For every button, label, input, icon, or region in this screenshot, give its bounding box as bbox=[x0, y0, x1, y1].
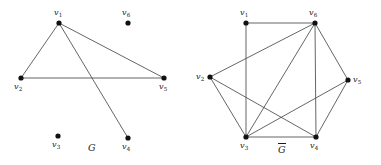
graph-edge-v1-v4 bbox=[59, 23, 128, 138]
vertex-label-subscript: 1 bbox=[245, 12, 249, 18]
vertex-label-base: v bbox=[14, 82, 19, 91]
vertex-label-v3: v3 bbox=[240, 142, 248, 150]
vertex-label-v2: v2 bbox=[196, 73, 204, 81]
graph-vertex-v4 bbox=[125, 135, 130, 140]
vertex-label-subscript: 3 bbox=[245, 145, 249, 151]
vertex-label-base: v bbox=[122, 8, 127, 17]
graph-edge-v3-v6 bbox=[246, 23, 315, 137]
vertex-label-base: v bbox=[54, 8, 59, 17]
graph-vertex-v2 bbox=[207, 74, 212, 79]
vertex-label-v2: v2 bbox=[14, 83, 22, 91]
graph-edge-v5-v6 bbox=[315, 23, 348, 80]
vertex-label-subscript: 6 bbox=[127, 12, 131, 18]
vertex-label-base: v bbox=[196, 72, 201, 81]
graph-vertex-v6 bbox=[125, 20, 130, 25]
graph-vertex-v5 bbox=[345, 77, 350, 82]
graph-caption-graph-g: G bbox=[88, 143, 96, 153]
graph-edge-v3-v5 bbox=[246, 80, 348, 137]
graph-vertex-v4 bbox=[313, 134, 318, 139]
vertex-label-base: v bbox=[159, 82, 164, 91]
graph-vertex-v2 bbox=[18, 75, 23, 80]
vertex-label-base: v bbox=[310, 141, 315, 150]
vertex-label-subscript: 4 bbox=[315, 145, 319, 151]
graph-vertex-v6 bbox=[312, 20, 317, 25]
vertex-label-subscript: 4 bbox=[127, 146, 131, 152]
vertex-label-v6: v6 bbox=[309, 9, 317, 17]
vertex-label-base: v bbox=[52, 140, 57, 149]
graph-vertex-v3 bbox=[243, 134, 248, 139]
vertex-label-v5: v5 bbox=[353, 76, 361, 84]
graph-edge-v2-v3 bbox=[210, 77, 246, 137]
vertex-label-subscript: 5 bbox=[358, 79, 362, 85]
graph-vertex-v3 bbox=[55, 133, 60, 138]
graph-vertex-v1 bbox=[56, 20, 61, 25]
figure-container: v1v2v3v4v5v6Gv1v2v3v4v5v6G bbox=[0, 0, 381, 165]
vertex-label-base: v bbox=[353, 75, 358, 84]
graph-edge-v1-v2 bbox=[21, 23, 59, 78]
vertex-label-base: v bbox=[240, 8, 245, 17]
vertex-label-subscript: 2 bbox=[19, 86, 23, 92]
vertex-label-base: v bbox=[240, 141, 245, 150]
vertex-label-v4: v4 bbox=[122, 143, 130, 151]
vertex-label-subscript: 5 bbox=[164, 86, 168, 92]
vertex-label-subscript: 3 bbox=[57, 144, 61, 150]
vertex-label-v6: v6 bbox=[122, 9, 130, 17]
vertex-label-v3: v3 bbox=[52, 141, 60, 149]
vertex-label-subscript: 1 bbox=[59, 12, 63, 18]
vertex-label-base: v bbox=[309, 8, 314, 17]
vertex-label-subscript: 6 bbox=[314, 12, 318, 18]
vertex-label-subscript: 2 bbox=[201, 76, 205, 82]
graph-edge-v1-v5 bbox=[59, 23, 164, 78]
graph-vertex-v5 bbox=[161, 75, 166, 80]
graph-caption-graph-g-complement: G bbox=[278, 143, 286, 154]
vertex-label-v4: v4 bbox=[310, 142, 318, 150]
graph-edge-v2-v6 bbox=[210, 23, 315, 77]
vertex-label-v5: v5 bbox=[159, 83, 167, 91]
vertex-label-v1: v1 bbox=[240, 9, 248, 17]
edges-layer bbox=[21, 23, 348, 138]
graph-edge-v4-v6 bbox=[315, 23, 316, 137]
graph-vertex-v1 bbox=[243, 20, 248, 25]
vertex-label-v1: v1 bbox=[54, 9, 62, 17]
vertex-label-base: v bbox=[122, 142, 127, 151]
